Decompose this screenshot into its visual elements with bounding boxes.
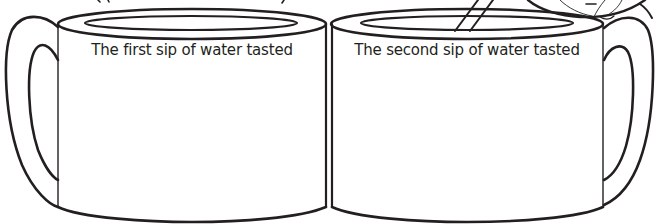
- mug-right-handle-inner: [604, 46, 633, 180]
- response-area-first-sip[interactable]: [62, 66, 320, 201]
- mug-left-rim: [58, 9, 326, 39]
- mug-left-base: [58, 207, 326, 222]
- mug-left-handle-inner: [29, 45, 58, 180]
- mug-left-rim-inner: [85, 16, 297, 30]
- lemon-slice-icon: [528, 0, 652, 19]
- mug-right-base: [332, 207, 603, 222]
- cropped-title-fragment: [98, 0, 284, 3]
- response-area-second-sip[interactable]: [338, 66, 596, 201]
- mug-left-handle-outer: [6, 17, 58, 207]
- prompt-second-sip: The second sip of water tasted: [333, 41, 601, 59]
- prompt-first-sip: The first sip of water tasted: [58, 41, 326, 59]
- mug-right-rim-inner: [361, 16, 573, 30]
- mug-right-handle-outer: [604, 18, 653, 205]
